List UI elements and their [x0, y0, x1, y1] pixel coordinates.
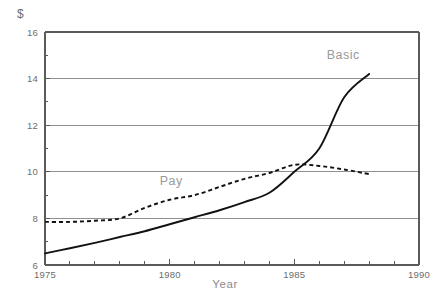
x-tick-label-1980: 1980: [159, 269, 181, 280]
y-tick-label-14: 14: [27, 73, 38, 84]
y-axis-ticks-group: [45, 32, 50, 265]
line-chart: 6810121416 1975198019851990 $ Year Basic…: [0, 0, 433, 301]
series-label-basic: Basic: [327, 48, 360, 62]
x-axis-ticks-group: [45, 259, 419, 265]
x-tick-label-1975: 1975: [34, 269, 56, 280]
gridlines-group: [45, 79, 419, 219]
x-axis-title: Year: [212, 278, 238, 290]
y-axis-unit-label: $: [17, 7, 24, 21]
series-label-pay: Pay: [160, 174, 183, 188]
y-axis-tick-labels-group: 6810121416: [27, 27, 38, 271]
series-line-basic: [45, 74, 369, 253]
y-tick-label-10: 10: [27, 166, 38, 177]
y-tick-label-12: 12: [27, 120, 38, 131]
plot-frame: [45, 32, 419, 265]
y-tick-label-16: 16: [27, 27, 38, 38]
data-series-group: [45, 74, 369, 253]
x-tick-label-1990: 1990: [408, 269, 430, 280]
x-tick-label-1985: 1985: [283, 269, 305, 280]
chart-canvas: 6810121416 1975198019851990 $ Year Basic…: [0, 0, 433, 301]
y-tick-label-8: 8: [33, 213, 38, 224]
